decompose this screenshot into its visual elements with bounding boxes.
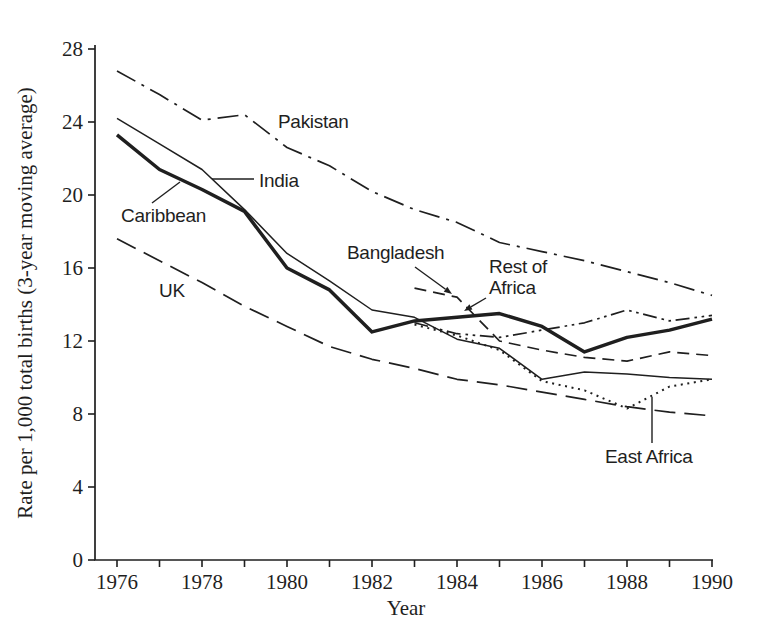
leader-rest-of-africa — [471, 298, 486, 307]
line-chart-svg: 0481216202428197619781980198219841986198… — [0, 0, 758, 641]
arrowhead-rest-of-africa — [464, 304, 472, 311]
y-tick-label-16: 16 — [62, 256, 83, 280]
y-tick-label-12: 12 — [62, 329, 83, 353]
x-axis-title: Year — [387, 596, 426, 620]
y-tick-label-24: 24 — [62, 110, 84, 134]
y-axis-ticks: 0481216202428 — [62, 37, 95, 572]
axis-frame — [95, 45, 713, 560]
leader-bangladesh — [415, 267, 446, 289]
series-uk-line — [117, 239, 712, 416]
leader-caribbean — [152, 182, 180, 203]
y-axis-title: Rate per 1,000 total births (3-year movi… — [13, 87, 37, 519]
x-tick-label-1978: 1978 — [181, 570, 223, 594]
series-bangladesh-line — [415, 288, 713, 361]
y-tick-label-4: 4 — [73, 475, 84, 499]
arrowhead-bangladesh — [444, 287, 452, 294]
label-east-africa: East Africa — [605, 446, 693, 467]
x-tick-label-1990: 1990 — [691, 570, 733, 594]
label-uk: UK — [159, 280, 185, 301]
x-tick-label-1980: 1980 — [266, 570, 308, 594]
series-rest-of-africa-line — [415, 310, 713, 337]
label-caribbean: Caribbean — [121, 205, 206, 226]
x-tick-label-1976: 1976 — [96, 570, 138, 594]
label-pakistan: Pakistan — [278, 111, 348, 132]
label-bangladesh: Bangladesh — [347, 242, 444, 263]
label-rest-of-africa: Rest of — [489, 256, 548, 277]
label-rest-of-africa: Africa — [489, 277, 537, 298]
x-tick-label-1988: 1988 — [606, 570, 648, 594]
x-tick-label-1986: 1986 — [521, 570, 563, 594]
x-tick-label-1982: 1982 — [351, 570, 393, 594]
y-tick-label-20: 20 — [62, 183, 83, 207]
label-india: India — [259, 170, 299, 191]
x-axis-ticks: 19761978198019821984198619881990 — [96, 560, 733, 594]
perinatal-mortality-figure: 0481216202428197619781980198219841986198… — [0, 0, 758, 641]
y-tick-label-0: 0 — [73, 548, 84, 572]
x-tick-label-1984: 1984 — [436, 570, 479, 594]
y-tick-label-8: 8 — [73, 402, 84, 426]
y-tick-label-28: 28 — [62, 37, 83, 61]
